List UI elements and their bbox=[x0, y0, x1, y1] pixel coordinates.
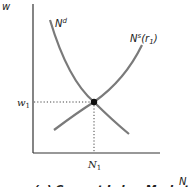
labor-supply-curve bbox=[54, 45, 142, 130]
supply-curve-label: Ns(r1) bbox=[130, 32, 158, 46]
chart-caption: (a) Current Labor Market bbox=[34, 183, 189, 187]
demand-curve-label: Nd bbox=[55, 17, 67, 29]
y-axis-label: w bbox=[2, 1, 11, 12]
equilibrium-point bbox=[91, 99, 97, 105]
w1-label: w1 bbox=[17, 97, 30, 110]
labor-market-chart: w N Nd Ns(r1) w1 N1 (a) Current Labor Ma… bbox=[0, 0, 189, 187]
labor-demand-curve bbox=[50, 20, 129, 134]
n1-label: N1 bbox=[87, 159, 101, 172]
